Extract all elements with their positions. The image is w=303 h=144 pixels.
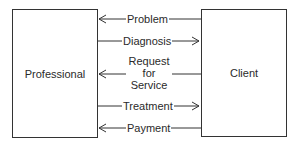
request-line: Request <box>127 55 171 67</box>
for-line: for <box>127 67 171 79</box>
flow-label-diagnosis: Diagnosis <box>122 35 172 47</box>
flow-label-payment: Payment <box>126 122 171 134</box>
flow-label-problem: Problem <box>126 13 169 25</box>
service-line: Service <box>127 79 171 91</box>
flow-label-treatment: Treatment <box>122 100 174 112</box>
flow-label-request-for-service: Request for Service <box>126 55 172 91</box>
